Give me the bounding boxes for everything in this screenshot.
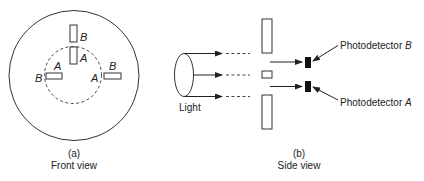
caption-b-title: Side view [278, 160, 322, 171]
left-slit [46, 73, 62, 79]
side-slit-bottom [262, 95, 272, 129]
label-photodetector-A-letter: A [404, 97, 412, 108]
light-source-ellipse [175, 54, 194, 97]
label-photodetector-A-prefix: Photodetector [340, 97, 405, 108]
side-slit-top [262, 19, 272, 53]
label-photodetector-A: Photodetector A [340, 97, 412, 108]
top-slit-A [70, 47, 77, 64]
caption-a-title: Front view [51, 160, 98, 171]
label-left-A: A [53, 60, 61, 72]
label-top-B: B [80, 31, 87, 43]
label-photodetector-B: Photodetector B [340, 40, 412, 51]
pointer-A [313, 87, 338, 100]
label-photodetector-B-prefix: Photodetector [340, 40, 405, 51]
diagram-svg: B A B A A B (a) Front view Light [0, 0, 424, 181]
light-label: Light [179, 102, 201, 113]
label-right-A: A [90, 72, 98, 84]
photodetector-A [305, 81, 311, 92]
label-photodetector-B-letter: B [405, 40, 412, 51]
side-slit-center [262, 71, 272, 78]
photodetector-B [305, 57, 311, 68]
label-right-B: B [109, 60, 116, 72]
label-top-A: A [79, 52, 87, 64]
top-slit-B [70, 25, 77, 42]
caption-b-letter: (b) [293, 148, 305, 159]
front-view: B A B A A B (a) Front view [9, 11, 139, 172]
caption-a-letter: (a) [68, 148, 80, 159]
label-left-B: B [35, 72, 42, 84]
side-view: Light Photodetector B Photodetector A (b… [175, 19, 413, 171]
right-slit [104, 73, 121, 79]
pointer-B [313, 46, 338, 62]
diagram-canvas: B A B A A B (a) Front view Light [0, 0, 424, 181]
